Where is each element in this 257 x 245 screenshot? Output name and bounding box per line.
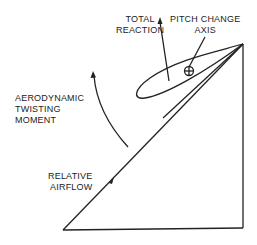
twisting-moment-arc <box>94 76 128 147</box>
airflow-arrow-icon <box>109 177 114 184</box>
total-reaction-label: TOTAL REACTION <box>116 14 164 36</box>
relative-airflow-line <box>63 44 243 230</box>
label-line: PITCH CHANGE <box>170 14 240 25</box>
pitch-change-axis-label: PITCH CHANGE AXIS <box>170 14 240 36</box>
pitch-axis-leader <box>189 37 205 67</box>
label-line: RELATIVE <box>32 171 92 182</box>
label-line: TOTAL <box>116 14 164 25</box>
arrowhead-twist-icon <box>91 71 97 78</box>
label-line: AERODYNAMIC <box>15 93 84 104</box>
label-line: REACTION <box>116 25 164 36</box>
twisting-moment-label: AERODYNAMIC TWISTING MOMENT <box>15 93 84 126</box>
label-line: MOMENT <box>15 115 84 126</box>
relative-airflow-label: RELATIVE AIRFLOW <box>32 171 92 193</box>
label-line: TWISTING <box>15 104 84 115</box>
label-line: AIRFLOW <box>32 182 92 193</box>
label-line: AXIS <box>170 25 240 36</box>
triangle-base <box>63 228 243 230</box>
aerodynamic-twisting-diagram: TOTAL REACTION PITCH CHANGE AXIS AERODYN… <box>0 0 257 245</box>
